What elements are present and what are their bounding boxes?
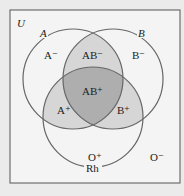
universe-label: U bbox=[17, 17, 26, 29]
region-b-pos: B⁺ bbox=[117, 104, 130, 116]
region-b-neg: B⁻ bbox=[132, 49, 145, 61]
region-a-pos: A⁺ bbox=[57, 104, 71, 116]
region-o-neg: O⁻ bbox=[150, 151, 164, 163]
set-rh-label: Rh bbox=[86, 162, 99, 174]
region-ab-neg: AB⁻ bbox=[82, 49, 103, 61]
set-a-label: A bbox=[39, 27, 47, 39]
region-o-pos: O⁺ bbox=[88, 151, 102, 163]
blood-type-venn-diagram: U A B Rh A⁻ AB⁻ B⁻ AB⁺ A⁺ B⁺ O⁺ O⁻ bbox=[0, 0, 184, 196]
region-ab-pos: AB⁺ bbox=[82, 85, 103, 97]
region-a-neg: A⁻ bbox=[44, 49, 58, 61]
set-b-label: B bbox=[138, 27, 145, 39]
